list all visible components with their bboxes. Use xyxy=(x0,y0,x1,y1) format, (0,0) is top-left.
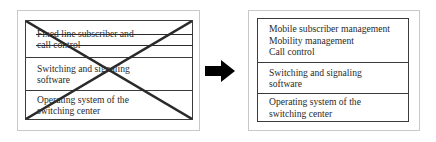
after-layer-switching-signaling-line-1: Switching and signaling xyxy=(269,67,408,78)
before-layer-application: Fixed line subscriber and call control xyxy=(26,21,192,57)
after-stack: Mobile subscriber management Mobility ma… xyxy=(257,18,409,122)
before-stack: Fixed line subscriber and call control S… xyxy=(25,20,193,120)
after-layer-application-line-2: Mobility management xyxy=(269,35,408,46)
before-layer-operating-system: Operating system of the switching center xyxy=(26,90,192,119)
before-layer-switching-signaling: Switching and signaling software xyxy=(26,57,192,90)
before-layer-operating-system-line-1: Operating system of the xyxy=(37,94,192,105)
before-layer-application-line-2: call control xyxy=(37,39,192,50)
before-layer-switching-signaling-line-1: Switching and signaling xyxy=(37,63,192,74)
transformation-arrow-icon xyxy=(205,60,235,82)
after-layer-operating-system: Operating system of the switching center xyxy=(258,93,408,121)
after-layer-operating-system-line-2: switching center xyxy=(269,108,408,119)
after-layer-switching-signaling-line-2: software xyxy=(269,78,408,89)
before-layer-application-line-1: Fixed line subscriber and xyxy=(37,28,192,39)
after-layer-application-line-1: Mobile subscriber management xyxy=(269,23,408,34)
after-layer-application: Mobile subscriber management Mobility ma… xyxy=(258,19,408,62)
before-layer-switching-signaling-line-2: software xyxy=(37,74,192,85)
before-layer-operating-system-line-2: switching center xyxy=(37,105,192,116)
after-layer-operating-system-line-1: Operating system of the xyxy=(269,96,408,107)
after-layer-application-line-3: Call control xyxy=(269,46,408,57)
after-layer-switching-signaling: Switching and signaling software xyxy=(258,62,408,93)
diagram-canvas: Fixed line subscriber and call control S… xyxy=(0,0,436,142)
